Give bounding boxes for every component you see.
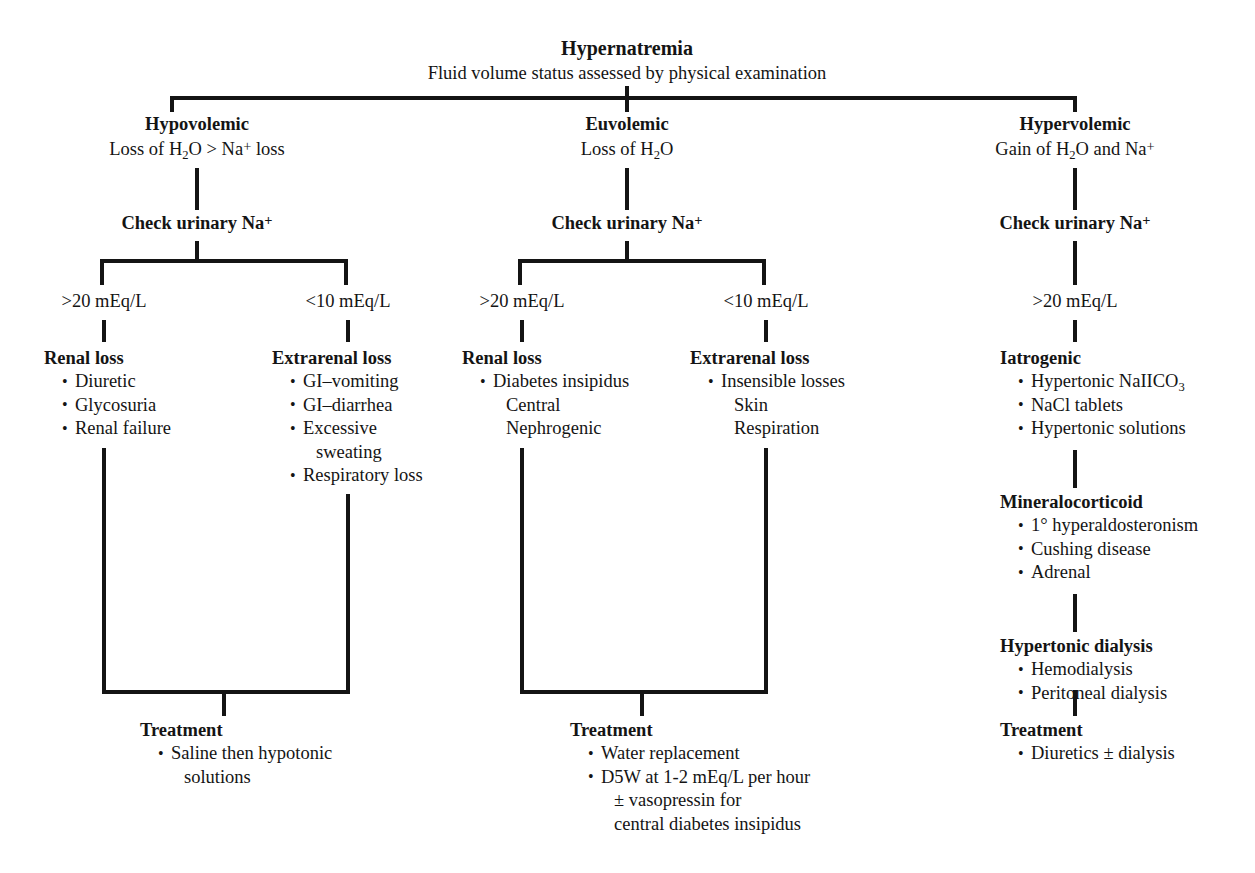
list-item: Saline then hypotonic [158, 742, 332, 766]
level-label-hypervolemic: >20 mEq/L [1033, 290, 1118, 313]
connector-euvolemic-treatment-stem [640, 690, 644, 716]
connector-hypovolemic-treatment-stem [222, 690, 226, 716]
sodium-charge-icon: + [264, 212, 272, 228]
list-item-text: Hypertonic NaIICO [1031, 371, 1178, 391]
treatment-hypovolemic: Treatment Saline then hypotonic solution… [140, 719, 332, 789]
category-hypovolemic-extrarenal-loss: Extrarenal loss GI–vomiting GI–diarrhea … [272, 347, 423, 488]
definition-pre: Gain of H [995, 139, 1069, 159]
category-hypervolemic-iatrogenic: Iatrogenic Hypertonic NaIICO3 NaCl table… [1000, 347, 1186, 441]
connector-main-bracket [170, 96, 1077, 100]
definition-post: O > Na [189, 139, 244, 159]
list-item: Water replacement [588, 742, 810, 766]
list-item: NaCl tablets [1018, 394, 1186, 418]
list-item: Insensible losses [708, 370, 845, 394]
list-item: Hemodialysis [1018, 658, 1167, 682]
category-item-list: Diuretic Glycosuria Renal failure [44, 370, 171, 441]
category-heading: Extrarenal loss [272, 347, 423, 370]
category-heading: Renal loss [462, 347, 629, 370]
definition-post: O [660, 139, 673, 159]
connector-hypervolemic-mineralo-to-dialysis [1073, 594, 1077, 632]
connector-split-leg-right-euvolemic [762, 259, 766, 285]
check-label: Check urinary Na [121, 213, 264, 233]
connector-hypervolemic-dialysis-to-treatment [1073, 690, 1077, 716]
category-heading: Hypertonic dialysis [1000, 635, 1167, 658]
connector-hypervolemic-iatrogenic-to-mineralo [1073, 450, 1077, 488]
level-label-euvolemic-extrarenal: <10 mEq/L [724, 290, 809, 313]
list-item: Cushing disease [1018, 538, 1198, 562]
list-item: Adrenal [1018, 561, 1198, 585]
category-heading: Mineralocorticoid [1000, 491, 1198, 514]
list-item: Nephrogenic [480, 417, 629, 441]
definition-tail: loss [251, 139, 284, 159]
check-urinary-na-hypervolemic: Check urinary Na+ [999, 212, 1150, 235]
connector-level-stem-euvolemic-renal [520, 320, 524, 342]
category-item-list: Hypertonic NaIICO3 NaCl tablets Hyperton… [1000, 370, 1186, 441]
level-label-hypovolemic-renal: >20 mEq/L [62, 290, 147, 313]
connector-hypovolemic-extrarenal-descender [346, 494, 350, 693]
connector-check-stem-hypervolemic [1073, 241, 1077, 285]
list-item: Excessive [290, 417, 423, 441]
connector-main-leg-middle [625, 96, 629, 112]
connector-check-stem-euvolemic [625, 241, 629, 261]
connector-split-leg-right-hypovolemic [344, 259, 348, 285]
category-item-list: 1° hyperaldosteronism Cushing disease Ad… [1000, 514, 1198, 585]
category-hypervolemic-hypertonic-dialysis: Hypertonic dialysis Hemodialysis Periton… [1000, 635, 1167, 705]
connector-split-bracket-euvolemic [518, 259, 766, 263]
branch-title-euvolemic: Euvolemic [585, 113, 668, 136]
list-item: central diabetes insipidus [588, 813, 810, 837]
list-item: ± vasopressin for [588, 789, 810, 813]
list-item: Central [480, 394, 629, 418]
check-urinary-na-euvolemic: Check urinary Na+ [551, 212, 702, 235]
list-item: Skin [708, 394, 845, 418]
connector-hypovolemic-to-check [195, 168, 199, 210]
list-item: Hypertonic NaIICO3 [1018, 370, 1186, 394]
category-hypovolemic-renal-loss: Renal loss Diuretic Glycosuria Renal fai… [44, 347, 171, 441]
category-item-list: Hemodialysis Peritoneal dialysis [1000, 658, 1167, 705]
treatment-heading: Treatment [140, 719, 332, 742]
connector-euvolemic-to-check [625, 168, 629, 210]
list-item: Diuretics ± dialysis [1018, 742, 1175, 766]
definition-pre: Loss of H [581, 139, 654, 159]
category-euvolemic-extrarenal-loss: Extrarenal loss Insensible losses Skin R… [690, 347, 845, 441]
connector-split-bracket-hypovolemic [100, 259, 348, 263]
category-heading: Renal loss [44, 347, 171, 370]
connector-level-stem-hypervolemic [1073, 320, 1077, 342]
treatment-heading: Treatment [570, 719, 810, 742]
list-item: sweating [290, 441, 423, 465]
connector-level-stem-euvolemic-extrarenal [764, 320, 768, 342]
check-label: Check urinary Na [551, 213, 694, 233]
list-item: GI–diarrhea [290, 394, 423, 418]
branch-definition-euvolemic: Loss of H2O [581, 138, 674, 161]
branch-definition-hypovolemic: Loss of H2O > Na+ loss [109, 138, 284, 161]
list-item: Respiratory loss [290, 464, 423, 488]
connector-main-leg-right [1073, 96, 1077, 112]
connector-euvolemic-extrarenal-descender [764, 448, 768, 693]
connector-euvolemic-join-bracket [520, 690, 768, 694]
list-item: Respiration [708, 417, 845, 441]
connector-euvolemic-renal-descender [520, 448, 524, 693]
branch-title-hypovolemic: Hypovolemic [145, 113, 249, 136]
category-item-list: GI–vomiting GI–diarrhea Excessive sweati… [272, 370, 423, 488]
list-item: Hypertonic solutions [1018, 417, 1186, 441]
treatment-euvolemic: Treatment Water replacement D5W at 1-2 m… [570, 719, 810, 836]
category-item-list: Insensible losses Skin Respiration [690, 370, 845, 441]
level-label-euvolemic-renal: >20 mEq/L [480, 290, 565, 313]
category-heading: Iatrogenic [1000, 347, 1186, 370]
connector-main-leg-left [170, 96, 174, 112]
sodium-charge-icon: + [243, 138, 251, 154]
connector-level-stem-hypovolemic-extrarenal [346, 320, 350, 342]
list-item: Renal failure [62, 417, 171, 441]
treatment-hypervolemic: Treatment Diuretics ± dialysis [1000, 719, 1175, 766]
list-item: D5W at 1-2 mEq/L per hour [588, 766, 810, 790]
treatment-heading: Treatment [1000, 719, 1175, 742]
page-title: Hypernatremia [561, 36, 693, 60]
check-urinary-na-hypovolemic: Check urinary Na+ [121, 212, 272, 235]
list-item: Diabetes insipidus [480, 370, 629, 394]
sodium-charge-icon: + [1142, 212, 1150, 228]
connector-level-stem-hypovolemic-renal [102, 320, 106, 342]
check-label: Check urinary Na [999, 213, 1142, 233]
treatment-item-list: Water replacement D5W at 1-2 mEq/L per h… [570, 742, 810, 836]
list-item: GI–vomiting [290, 370, 423, 394]
level-label-hypovolemic-extrarenal: <10 mEq/L [306, 290, 391, 313]
page-subtitle: Fluid volume status assessed by physical… [428, 62, 827, 85]
